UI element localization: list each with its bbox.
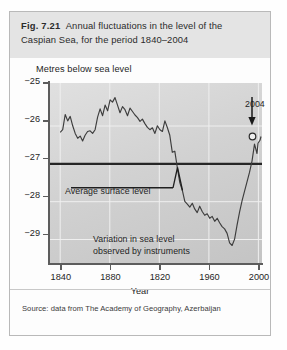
figure-number: Fig. 7.21 — [21, 20, 60, 31]
caption-text-1: Annual fluctuations in the level of the — [66, 20, 223, 31]
y-tick-label: −27 — [14, 152, 40, 162]
figure-card: Fig. 7.21 Annual fluctuations in the lev… — [9, 11, 271, 336]
x-tick-mark — [60, 264, 61, 270]
figure-caption: Fig. 7.21 Annual fluctuations in the lev… — [10, 12, 270, 58]
y-axis-title: Metres below sea level — [36, 64, 132, 74]
chart: Metres below sea level — [10, 58, 270, 290]
x-tick-mark — [258, 264, 259, 270]
y-tick-label: −26 — [14, 114, 40, 124]
y-tick-label: −29 — [14, 228, 40, 238]
caption-line-1: Fig. 7.21 Annual fluctuations in the lev… — [21, 19, 259, 33]
y-tick-label: −28 — [14, 190, 40, 200]
x-tick-label: 1820 — [143, 272, 177, 282]
annotation-average-surface-level: Average surface level — [65, 186, 150, 196]
y-tick-mark — [43, 234, 49, 235]
y-tick-mark — [43, 120, 49, 121]
source-section: Source: data from The Academy of Geograp… — [10, 289, 270, 335]
annotation-variation-line-1: Variation in sea level — [93, 234, 175, 244]
annotation-endpoint-year: 2004 — [245, 99, 265, 109]
y-axis-line — [48, 81, 50, 265]
x-tick-label: 1840 — [44, 272, 78, 282]
x-axis-line — [48, 263, 263, 265]
y-tick-mark — [43, 158, 49, 159]
y-tick-mark — [43, 196, 49, 197]
y-tick-mark — [43, 82, 49, 83]
x-tick-mark — [209, 264, 210, 270]
endpoint-marker-2004 — [249, 133, 256, 140]
x-tick-mark — [110, 264, 111, 270]
figure-page: Fig. 7.21 Annual fluctuations in the lev… — [0, 0, 287, 350]
x-tick-label: 1960 — [193, 272, 227, 282]
x-tick-mark — [159, 264, 160, 270]
x-tick-label: 1880 — [93, 272, 127, 282]
source-text: Source: data from The Academy of Geograp… — [22, 304, 221, 313]
data-line-caspian-sea-level — [60, 98, 261, 246]
x-tick-label: 2000 — [242, 272, 276, 282]
caption-line-2: Caspian Sea, for the period 1840–2004 — [21, 33, 259, 47]
annotation-variation-line-2: observed by instruments — [93, 246, 190, 256]
y-tick-label: −25 — [14, 76, 40, 86]
